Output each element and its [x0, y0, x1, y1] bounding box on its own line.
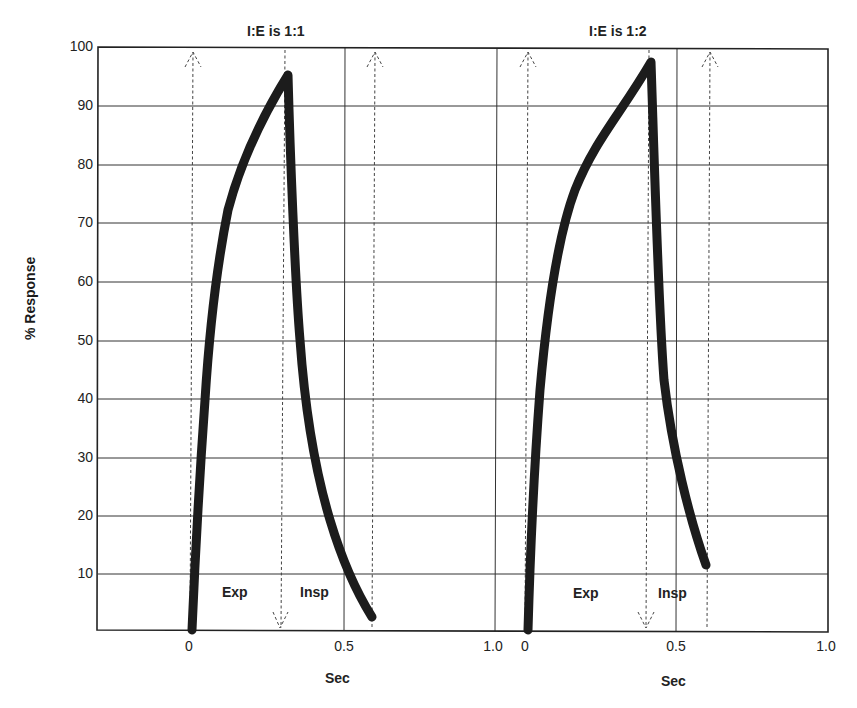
x-tick-left-1.0: 1.0 [483, 638, 502, 654]
y-tick-50: 50 [53, 332, 93, 348]
insp-annotation-right: Insp [658, 585, 687, 601]
panel-title-left: I:E is 1:1 [247, 23, 305, 39]
y-tick-80: 80 [53, 156, 93, 172]
x-tick-left-0: 0 [185, 638, 193, 654]
response-curve-right [528, 62, 706, 630]
x-axis-label-right: Sec [661, 673, 686, 689]
x-tick-right-0: 0 [521, 638, 529, 654]
insp-annotation-left: Insp [300, 584, 329, 600]
y-tick-10: 10 [53, 565, 93, 581]
dashed-markers-left [185, 50, 383, 628]
y-tick-30: 30 [53, 449, 93, 465]
vertical-gridlines [344, 47, 677, 631]
x-axis-label-left: Sec [325, 670, 350, 686]
exp-annotation-left: Exp [222, 584, 248, 600]
y-axis-label: % Response [22, 257, 38, 340]
panel-title-right: I:E is 1:2 [589, 23, 647, 39]
x-tick-right-0.5: 0.5 [666, 638, 685, 654]
y-tick-70: 70 [53, 214, 93, 230]
exp-annotation-right: Exp [573, 585, 599, 601]
x-tick-right-1.0: 1.0 [816, 638, 835, 654]
y-tick-20: 20 [53, 507, 93, 523]
y-tick-40: 40 [53, 390, 93, 406]
y-tick-60: 60 [53, 273, 93, 289]
x-tick-left-0.5: 0.5 [334, 638, 353, 654]
y-tick-100: 100 [53, 38, 93, 54]
y-tick-90: 90 [53, 97, 93, 113]
response-chart [0, 0, 857, 708]
